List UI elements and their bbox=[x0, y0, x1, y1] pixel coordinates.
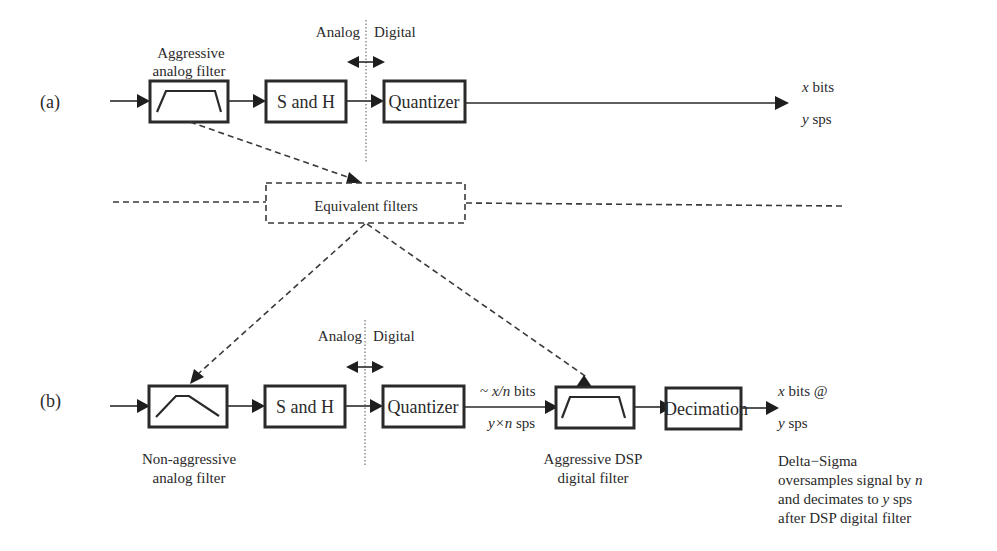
decimation-label: Decimation bbox=[664, 399, 748, 419]
analog-label-b: Analog bbox=[318, 328, 363, 344]
arrowhead-icon bbox=[766, 401, 779, 415]
quantizer-output-bits: ~ x/n bits bbox=[480, 383, 536, 399]
arrow-left-icon bbox=[346, 361, 358, 373]
equivalent-filters-label: Equivalent filters bbox=[314, 198, 418, 214]
arrow-right-icon bbox=[373, 56, 385, 68]
delta-sigma-note: Delta−Sigma oversamples signal by n and … bbox=[778, 453, 923, 526]
output-rate-b: y sps bbox=[776, 415, 808, 431]
arrow-right-icon bbox=[372, 361, 384, 373]
non-aggressive-filter-caption-2: analog filter bbox=[153, 470, 226, 486]
row-a-label: (a) bbox=[40, 92, 60, 113]
aggressive-filter-caption-2: analog filter bbox=[153, 63, 226, 79]
note-line-1: Delta−Sigma bbox=[778, 453, 858, 469]
arrowhead-icon bbox=[190, 369, 204, 384]
equivalent-filters-diagram: (a) Aggressive analog filter S and H Ana… bbox=[0, 0, 997, 551]
analog-label-a: Analog bbox=[316, 24, 361, 40]
row-a: (a) Aggressive analog filter S and H Ana… bbox=[40, 20, 834, 162]
note-line-4: after DSP digital filter bbox=[778, 510, 911, 526]
quantizer-output-rate: y×n sps bbox=[486, 415, 535, 431]
output-bits-a: x bits bbox=[801, 79, 834, 95]
note-line-3: and decimates to y sps bbox=[778, 491, 912, 507]
arrowhead-icon bbox=[253, 94, 266, 108]
dashed-link-left bbox=[198, 224, 365, 374]
row-b: (b) Non-aggressive analog filter S and H… bbox=[40, 320, 923, 526]
arrowhead-icon bbox=[371, 94, 384, 108]
dsp-filter-caption-1: Aggressive DSP bbox=[544, 451, 643, 467]
digital-label-a: Digital bbox=[374, 24, 416, 40]
output-rate-a: y sps bbox=[800, 111, 832, 127]
arrowhead-icon bbox=[370, 399, 383, 413]
arrow-left-icon bbox=[347, 56, 359, 68]
dashed-link-top bbox=[190, 122, 356, 180]
arrowhead-icon bbox=[252, 399, 265, 413]
non-aggressive-filter-caption-1: Non-aggressive bbox=[142, 451, 236, 467]
row-b-label: (b) bbox=[40, 391, 61, 412]
output-bits-b: x bits @ bbox=[777, 383, 828, 399]
aggressive-filter-caption-1: Aggressive bbox=[157, 45, 225, 61]
dsp-filter-caption-2: digital filter bbox=[557, 470, 628, 486]
arrowhead-icon bbox=[137, 94, 150, 108]
dashed-divider-right bbox=[466, 203, 843, 206]
dashed-link-right bbox=[367, 224, 588, 378]
arrowhead-icon bbox=[576, 375, 592, 387]
arrowhead-icon bbox=[775, 96, 789, 110]
sample-hold-label-b: S and H bbox=[276, 397, 334, 417]
digital-label-b: Digital bbox=[373, 328, 415, 344]
non-aggressive-analog-filter-block bbox=[149, 386, 227, 427]
note-line-2: oversamples signal by n bbox=[778, 472, 923, 488]
quantizer-label-b: Quantizer bbox=[388, 397, 459, 417]
equivalence-section: Equivalent filters bbox=[113, 122, 843, 384]
quantizer-label-a: Quantizer bbox=[389, 92, 460, 112]
sample-hold-label-a: S and H bbox=[277, 92, 335, 112]
